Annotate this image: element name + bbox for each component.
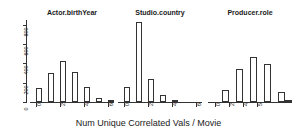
- histogram-bar: [36, 88, 42, 102]
- histogram-bar: [48, 73, 54, 102]
- panel-plot-producer-role: [208, 20, 292, 102]
- x-tick-label: 2: [229, 103, 235, 115]
- y-axis-label: Frequency: [0, 0, 5, 22]
- x-tick-label: 6: [108, 103, 114, 115]
- x-tick-label: 4: [84, 103, 90, 115]
- x-tick-label: 2: [60, 103, 66, 115]
- panel-plot-actor-birthyear: [30, 20, 114, 102]
- histogram-bar: [236, 69, 243, 102]
- panel-plot-studio-country: [118, 20, 202, 102]
- histogram-bar: [72, 72, 78, 102]
- histogram-bar: [124, 87, 130, 102]
- x-tick-label: 2: [148, 103, 154, 115]
- histogram-bar: [160, 95, 166, 102]
- histogram-bar: [84, 87, 90, 102]
- x-tick-label: 4: [243, 103, 249, 115]
- histogram-bar: [60, 61, 66, 102]
- histogram-bar: [136, 22, 142, 102]
- x-axis-label: Num Unique Correlated Vals / Movie: [0, 118, 297, 128]
- x-tick-label: 0: [36, 103, 42, 115]
- y-tick-label: 400: [23, 63, 29, 77]
- histogram-bar: [264, 64, 271, 102]
- x-tick-label: 5: [257, 103, 263, 115]
- bars-studio-country: [118, 20, 202, 102]
- histogram-bar: [278, 92, 285, 102]
- x-axis-actor-birthyear: 0246: [30, 102, 114, 107]
- panel-title-studio-country: Studio.country: [118, 9, 202, 16]
- y-tick-label: 600: [23, 44, 29, 58]
- histogram-figure: Actor.birthYear Studio.country Producer.…: [0, 0, 297, 136]
- panel-title-actor-birthyear: Actor.birthYear: [30, 9, 114, 16]
- y-tick-label: 0: [23, 102, 29, 116]
- x-axis-producer-role: 0245: [208, 102, 292, 107]
- x-axis-studio-country: 0246: [118, 102, 202, 107]
- y-tick-label: 200: [23, 83, 29, 97]
- x-tick-label: 0: [215, 103, 221, 115]
- x-tick-label: 0: [124, 103, 130, 115]
- bars-actor-birthyear: [30, 20, 114, 102]
- y-tick-label: 800: [23, 25, 29, 39]
- histogram-bar: [250, 57, 257, 102]
- bars-producer-role: [208, 20, 292, 102]
- histogram-bar: [148, 79, 154, 102]
- histogram-bar: [222, 90, 229, 102]
- x-tick-label: 4: [172, 103, 178, 115]
- panel-title-producer-role: Producer.role: [208, 9, 292, 16]
- x-tick-label: 6: [196, 103, 202, 115]
